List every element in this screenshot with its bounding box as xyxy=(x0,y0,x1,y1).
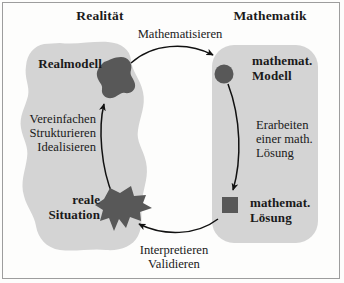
arrow-label-vereinfachen-line1: Vereinfachen xyxy=(30,112,96,126)
node-label-mathematische-loesung-line1: mathemat. xyxy=(250,195,310,210)
node-label-mathematisches-modell-line1: mathemat. xyxy=(252,53,312,68)
node-label-mathematisches-modell-line2: Modell xyxy=(252,68,292,83)
node-label-mathematische-loesung: mathemat.Lösung xyxy=(250,196,342,225)
arrow-interpretieren-validieren xyxy=(139,219,218,232)
node-label-reale-situation-line2: Situation xyxy=(49,207,100,222)
arrow-label-erarbeiten: Erarbeiteneiner math.Lösung xyxy=(256,118,342,160)
arrow-mathematisieren xyxy=(131,46,213,63)
arrow-label-vereinfachen-line3: Idealisieren xyxy=(37,140,96,154)
arrow-label-vereinfachen: VereinfachenStrukturierenIdealisieren xyxy=(4,112,96,154)
arrow-label-interpretieren-validieren: InterpretierenValidieren xyxy=(108,243,240,271)
arrow-label-erarbeiten-line3: Lösung xyxy=(256,146,294,160)
node-label-mathematische-loesung-line2: Lösung xyxy=(250,210,292,225)
node-label-reale-situation: realeSituation xyxy=(16,193,100,222)
mathematisches-modell-circle-icon xyxy=(215,65,234,84)
arrow-label-mathematisieren: Mathematisieren xyxy=(104,27,256,41)
arrow-label-interpretieren-validieren-line1: Interpretieren xyxy=(140,243,209,257)
node-label-reale-situation-line1: reale xyxy=(72,192,100,207)
arrow-label-interpretieren-validieren-line2: Validieren xyxy=(148,257,200,271)
mathematische-loesung-square-icon xyxy=(222,197,238,213)
modelling-cycle-diagram: Realität Mathematik Mathematisieren Real… xyxy=(0,0,344,283)
node-label-mathematisches-modell: mathemat.Modell xyxy=(252,54,342,83)
arrow-label-erarbeiten-line2: einer math. xyxy=(256,132,313,146)
node-label-realmodell: Realmodell xyxy=(22,57,102,72)
heading-mathematik: Mathematik xyxy=(216,8,324,23)
heading-realitaet: Realität xyxy=(46,8,154,23)
arrow-label-erarbeiten-line1: Erarbeiten xyxy=(256,118,308,132)
arrow-label-vereinfachen-line2: Strukturieren xyxy=(30,126,96,140)
